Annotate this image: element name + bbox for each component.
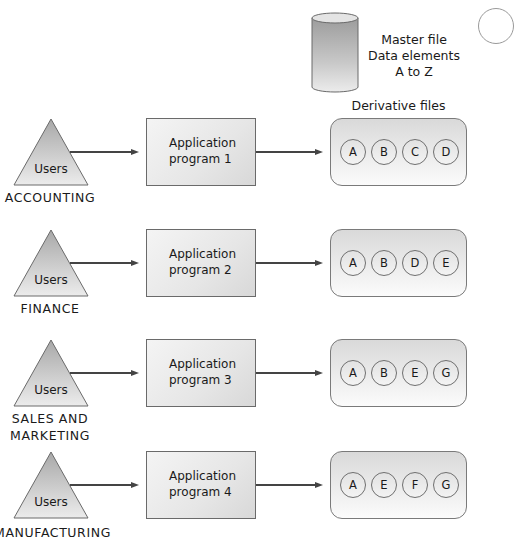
data-element-circle: A (340, 360, 366, 386)
data-element-circle: C (402, 139, 428, 165)
master-file-subtitle: Data elements (364, 48, 464, 64)
data-element-circle: D (433, 139, 459, 165)
program-label-line: Application (169, 468, 236, 484)
derivative-file-box: AEFG (330, 451, 467, 519)
connector-line (70, 151, 132, 153)
data-element-circle: B (371, 139, 397, 165)
department-row: Users MANUFACTURING Application program … (0, 451, 489, 541)
arrow-right-icon (315, 482, 323, 488)
program-label-line: Application (169, 246, 236, 262)
department-label-line: MANUFACTURING (0, 524, 108, 541)
department-label-line: MARKETING (0, 427, 100, 444)
arrow-right-icon (315, 149, 323, 155)
department-label: FINANCE (0, 300, 100, 317)
data-element-circle: E (402, 360, 428, 386)
department-label-line: FINANCE (0, 300, 100, 317)
users-label: Users (14, 383, 88, 397)
connector-line (70, 484, 132, 486)
data-element-circle: A (340, 472, 366, 498)
derivative-files-title: Derivative files (330, 98, 467, 113)
department-row: Users SALES ANDMARKETING Application pro… (0, 339, 489, 439)
department-row: Users ACCOUNTING Application program 1 A… (0, 118, 489, 218)
arrow-right-icon (131, 482, 139, 488)
arrow-right-icon (131, 370, 139, 376)
department-label: SALES ANDMARKETING (0, 410, 100, 444)
data-element-circle: E (371, 472, 397, 498)
program-label-line: program 3 (169, 372, 236, 388)
derivative-file-box: ABCD (330, 118, 467, 186)
program-label-line: program 4 (169, 484, 236, 500)
application-program-box: Application program 1 (146, 118, 256, 186)
program-label-line: Application (169, 135, 236, 151)
program-label-line: program 1 (169, 151, 236, 167)
data-element-circle: E (433, 250, 459, 276)
data-element-circle: G (433, 360, 459, 386)
connector-line (70, 262, 132, 264)
connector-line (256, 484, 316, 486)
connector-line (256, 262, 316, 264)
data-element-circle: F (402, 472, 428, 498)
data-element-circle: B (371, 250, 397, 276)
department-row: Users FINANCE Application program 2 ABDE (0, 229, 489, 329)
partial-circle-decoration (478, 8, 514, 44)
program-label-line: Application (169, 356, 236, 372)
arrow-right-icon (315, 260, 323, 266)
derivative-file-box: ABDE (330, 229, 467, 297)
connector-line (70, 372, 132, 374)
users-label: Users (14, 273, 88, 287)
derivative-file-box: ABEG (330, 339, 467, 407)
data-element-circle: A (340, 139, 366, 165)
users-label: Users (14, 162, 88, 176)
department-label-line: ACCOUNTING (0, 189, 100, 206)
connector-line (256, 151, 316, 153)
data-element-circle: A (340, 250, 366, 276)
arrow-right-icon (131, 149, 139, 155)
master-file-cylinder-icon (311, 12, 359, 94)
master-file-label: Master file Data elements A to Z (364, 32, 464, 80)
department-label: ACCOUNTING (0, 189, 100, 206)
arrow-right-icon (315, 370, 323, 376)
master-file-range: A to Z (364, 64, 464, 80)
application-program-box: Application program 3 (146, 339, 256, 407)
data-element-circle: D (402, 250, 428, 276)
users-label: Users (14, 495, 88, 509)
application-program-box: Application program 4 (146, 451, 256, 519)
department-label: MANUFACTURING (0, 524, 108, 541)
department-label-line: SALES AND (0, 410, 100, 427)
application-program-box: Application program 2 (146, 229, 256, 297)
data-element-circle: B (371, 360, 397, 386)
arrow-right-icon (131, 260, 139, 266)
program-label-line: program 2 (169, 262, 236, 278)
data-element-circle: G (433, 472, 459, 498)
connector-line (256, 372, 316, 374)
master-file-title: Master file (364, 32, 464, 48)
